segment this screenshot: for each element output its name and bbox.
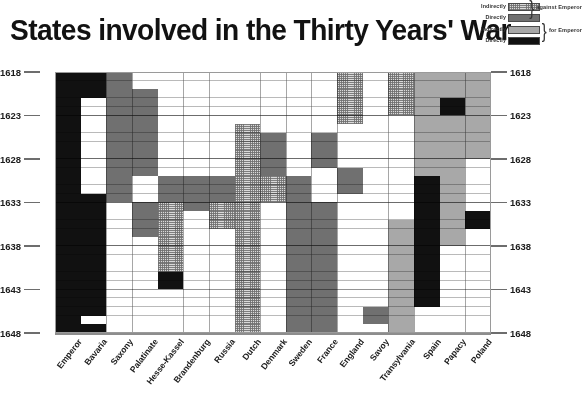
heatmap-cell <box>81 142 107 151</box>
x-axis-label-bavaria: Bavaria <box>82 337 109 367</box>
heatmap-cell <box>55 263 81 272</box>
heatmap-cell <box>235 324 261 333</box>
heatmap-cell <box>260 115 286 124</box>
heatmap-cell <box>81 307 107 316</box>
heatmap-cell <box>465 72 491 81</box>
heatmap-cell <box>209 150 235 159</box>
heatmap-cell <box>337 124 363 133</box>
heatmap-cell <box>158 307 184 316</box>
heatmap-cell <box>363 168 389 177</box>
heatmap-cell <box>260 98 286 107</box>
heatmap-cell <box>363 220 389 229</box>
heatmap-cell <box>440 115 466 124</box>
heatmap-cell <box>106 246 132 255</box>
heatmap-cell <box>286 263 312 272</box>
heatmap-cell <box>440 133 466 142</box>
heatmap-cell <box>465 89 491 98</box>
heatmap-cell <box>81 246 107 255</box>
heatmap-cell <box>440 81 466 90</box>
legend-swatch-directly-for <box>508 37 540 45</box>
heatmap-cell <box>440 194 466 203</box>
heatmap-cell <box>363 159 389 168</box>
y-axis-right: 1618162316281633163816431648 <box>0 0 55 403</box>
heatmap-cell <box>106 168 132 177</box>
heatmap-cell <box>440 98 466 107</box>
heatmap-cell <box>55 89 81 98</box>
heatmap-cell <box>235 107 261 116</box>
x-axis-label-text: Papacy <box>442 337 468 366</box>
heatmap-cell <box>337 307 363 316</box>
heatmap-cell <box>260 168 286 177</box>
heatmap-cell <box>106 176 132 185</box>
heatmap-cell <box>209 281 235 290</box>
heatmap-cell <box>183 185 209 194</box>
heatmap-cell <box>440 211 466 220</box>
heatmap-cell <box>158 72 184 81</box>
heatmap-cell <box>235 98 261 107</box>
heatmap-cell <box>235 246 261 255</box>
heatmap-cell <box>465 115 491 124</box>
heatmap-cell <box>235 176 261 185</box>
heatmap-cell <box>414 142 440 151</box>
heatmap-cell <box>388 159 414 168</box>
heatmap-cell <box>260 289 286 298</box>
heatmap-cell <box>132 72 158 81</box>
heatmap-cell <box>81 185 107 194</box>
heatmap-cell <box>183 281 209 290</box>
heatmap-cell <box>388 272 414 281</box>
heatmap-cell <box>311 229 337 238</box>
heatmap-cell <box>440 185 466 194</box>
heatmap-cell <box>132 272 158 281</box>
heatmap-cell <box>286 142 312 151</box>
heatmap-cell <box>81 255 107 264</box>
y-axis-tick-mark <box>491 289 507 290</box>
heatmap-cell <box>363 272 389 281</box>
heatmap-cell <box>388 202 414 211</box>
y-axis-tick-mark <box>491 332 507 333</box>
heatmap-cell <box>235 142 261 151</box>
heatmap-cell <box>81 115 107 124</box>
heatmap-cell <box>286 72 312 81</box>
heatmap-cell <box>183 298 209 307</box>
heatmap-cell <box>465 272 491 281</box>
heatmap-cell <box>311 89 337 98</box>
heatmap-cell <box>311 115 337 124</box>
heatmap-cell <box>81 133 107 142</box>
heatmap-cell <box>158 211 184 220</box>
heatmap-cell <box>81 229 107 238</box>
heatmap-cell <box>311 107 337 116</box>
y-axis-tick-1648: 1648 <box>491 327 551 339</box>
heatmap-cell <box>209 194 235 203</box>
heatmap-cell <box>132 202 158 211</box>
heatmap-cell <box>235 81 261 90</box>
heatmap-cell <box>209 263 235 272</box>
heatmap-cell <box>235 194 261 203</box>
heatmap-cell <box>260 316 286 325</box>
heatmap-cell <box>388 124 414 133</box>
heatmap-cell <box>311 324 337 333</box>
heatmap-cell <box>132 168 158 177</box>
heatmap-cell <box>183 81 209 90</box>
heatmap-cell <box>209 98 235 107</box>
heatmap-cell <box>363 298 389 307</box>
heatmap-cell <box>388 107 414 116</box>
heatmap-cell <box>209 89 235 98</box>
heatmap-cell <box>414 272 440 281</box>
heatmap-cell <box>158 316 184 325</box>
x-axis-label-text: Dutch <box>240 337 263 362</box>
heatmap-cell <box>209 142 235 151</box>
heatmap-cell <box>311 246 337 255</box>
heatmap-cell <box>132 281 158 290</box>
legend-brace-against: } against Emperor <box>529 5 582 11</box>
heatmap-cell <box>388 298 414 307</box>
heatmap-cell <box>81 150 107 159</box>
heatmap-cell <box>209 107 235 116</box>
heatmap-cell <box>465 316 491 325</box>
heatmap-cell <box>414 133 440 142</box>
heatmap-cell <box>260 89 286 98</box>
heatmap-cell <box>363 281 389 290</box>
heatmap-cell <box>388 316 414 325</box>
chart-plot-area <box>55 72 491 333</box>
heatmap-cell <box>158 107 184 116</box>
heatmap-cell <box>465 98 491 107</box>
